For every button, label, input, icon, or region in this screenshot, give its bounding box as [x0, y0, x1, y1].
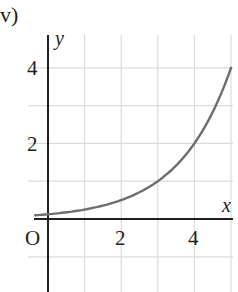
part-label: v)	[0, 2, 18, 27]
y-axis-label: y	[53, 27, 64, 50]
grid-lines	[28, 35, 233, 292]
x-tick-label-2: 2	[115, 226, 126, 250]
exponential-curve	[35, 68, 231, 216]
origin-label: O	[25, 226, 40, 250]
axes	[34, 35, 233, 292]
x-tick-label-4: 4	[188, 226, 199, 250]
x-axis-label: x	[221, 194, 231, 216]
chart: v) y x O 4 2 2 4	[0, 0, 238, 292]
y-tick-label-2: 2	[27, 132, 38, 156]
y-tick-label-4: 4	[27, 56, 38, 80]
